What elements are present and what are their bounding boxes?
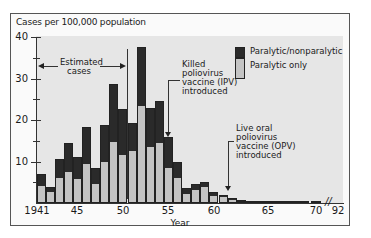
y-axis-title: Cases per 100,000 population [16, 17, 146, 27]
bar-segment-paralytic-only [156, 143, 163, 202]
bar-segment-paralytic-nonparalytic [138, 48, 145, 108]
bar-segment-paralytic-only [56, 178, 63, 202]
bar-1947 [91, 168, 100, 203]
bar-1956 [173, 162, 182, 203]
bar-segment-paralytic-only [38, 186, 45, 202]
estimated-line-left [44, 66, 58, 67]
bar-1944 [64, 143, 73, 203]
bar-tail-after-1970 [311, 201, 321, 203]
estimated-label-line2: cases [60, 67, 98, 76]
y-tick-label: 40 [6, 31, 28, 42]
bar-1968 [282, 201, 291, 203]
bar-segment-paralytic-only [119, 155, 126, 202]
y-tick-label: 20 [6, 114, 28, 125]
bar-segment-paralytic-nonparalytic [147, 109, 154, 149]
legend-label-light: Paralytic only [250, 60, 307, 70]
bar-1963 [237, 200, 246, 203]
y-tick-mark [31, 79, 41, 80]
bar-1967 [273, 201, 282, 203]
bar-segment-paralytic-only [192, 190, 199, 202]
bar-segment-paralytic-only [74, 179, 81, 202]
x-tick-label: 45 [71, 205, 84, 216]
y-tick-mark [33, 141, 40, 142]
bar-segment-paralytic-nonparalytic [129, 124, 136, 153]
bar-1970 [300, 201, 309, 203]
bar-1957 [182, 188, 191, 203]
estimated-arrow-right-icon [120, 63, 126, 69]
bar-segment-paralytic-nonparalytic [165, 138, 172, 170]
bar-segment-paralytic-only [183, 194, 190, 202]
ipv-arrow-icon [165, 132, 171, 137]
bar-1969 [291, 201, 300, 203]
bar-segment-paralytic-nonparalytic [56, 160, 63, 180]
bar-segment-paralytic-only [110, 142, 117, 202]
bar-1959 [200, 182, 209, 203]
bar-segment-paralytic-only [92, 184, 99, 202]
bar-segment-paralytic-only [229, 200, 236, 202]
bar-segment-paralytic-only [65, 172, 72, 202]
bar-segment-paralytic-only [147, 147, 154, 202]
bar-1942 [46, 187, 55, 203]
bar-segment-paralytic-nonparalytic [101, 126, 108, 164]
bar-segment-paralytic-only [101, 162, 108, 202]
bar-segment-paralytic-only [165, 168, 172, 202]
bar-segment-paralytic-only [83, 164, 90, 202]
x-axis-title: Year [170, 218, 189, 228]
bar-segment-paralytic-nonparalytic [74, 158, 81, 182]
x-tick-label: 1941 [24, 205, 49, 216]
bar-segment-paralytic-nonparalytic [119, 110, 126, 157]
bar-segment-paralytic-only [220, 197, 227, 202]
y-tick-label: 10 [6, 156, 28, 167]
bar-1964 [246, 201, 255, 203]
x-tick-label: 70 [310, 205, 323, 216]
ipv-leader-h [168, 80, 180, 81]
x-tick-label: 55 [162, 205, 175, 216]
bar-1961 [219, 195, 228, 203]
bar-1941 [37, 174, 46, 203]
bar-1954 [155, 101, 164, 203]
bar-segment-paralytic-nonparalytic [65, 144, 72, 174]
x-tick-label: 92 [332, 205, 345, 216]
bar-segment-paralytic-only [138, 106, 145, 202]
bar-1952 [137, 47, 146, 203]
bar-1966 [264, 201, 273, 203]
legend-label-dark: Paralytic/nonparalytic [250, 46, 342, 56]
bar-segment-paralytic-nonparalytic [110, 85, 117, 144]
bar-segment-paralytic-only [174, 178, 181, 202]
bar-segment-paralytic-nonparalytic [83, 128, 90, 165]
x-tick-label: 50 [117, 205, 130, 216]
bar-1965 [255, 201, 264, 203]
y-tick-mark [31, 37, 41, 38]
bar-1951 [128, 123, 137, 203]
bar-1953 [146, 108, 155, 203]
bar-1960 [209, 192, 218, 203]
y-tick-mark [31, 162, 41, 163]
ipv-line4: introduced [182, 87, 237, 96]
y-tick-mark [33, 99, 40, 100]
bar-1946 [82, 127, 91, 203]
bar-1945 [73, 157, 82, 203]
x-axis [36, 203, 344, 204]
x-tick-label: 65 [262, 205, 275, 216]
y-tick-mark [31, 120, 41, 121]
bar-1955 [164, 137, 173, 203]
bar-segment-paralytic-nonparalytic [156, 102, 163, 145]
bar-1958 [191, 184, 200, 203]
bar-segment-paralytic-only [210, 196, 217, 202]
opv-arrow-icon [225, 186, 231, 191]
ipv-annotation: Killed poliovirus vaccine (IPV) introduc… [182, 60, 237, 96]
estimated-boundary-line [127, 49, 128, 199]
opv-annotation: Live oral poliovirus vaccine (OPV) intro… [236, 124, 296, 160]
x-tick-label: 60 [208, 205, 221, 216]
bar-segment-paralytic-only [201, 187, 208, 202]
bar-1948 [100, 125, 109, 203]
y-tick-mark [33, 58, 40, 59]
bar-1943 [55, 159, 64, 203]
opv-leader-v [228, 141, 229, 187]
bar-1962 [228, 198, 237, 203]
bar-segment-paralytic-only [129, 151, 136, 202]
y-tick-label: 30 [6, 73, 28, 84]
axis-break-mark: // [325, 196, 332, 207]
legend-swatch-dark [235, 47, 245, 58]
estimated-label: Estimated cases [60, 58, 98, 76]
